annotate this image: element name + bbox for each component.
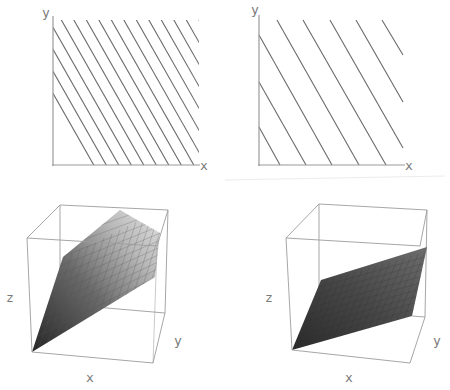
x-axis-label: x bbox=[405, 158, 413, 173]
contour-lines bbox=[259, 20, 403, 165]
surface-mesh bbox=[292, 247, 427, 350]
figure-canvas: y x y x bbox=[0, 0, 450, 390]
z-axis-label: z bbox=[265, 290, 273, 305]
contour-plot-sparse: y x bbox=[251, 2, 413, 173]
surface-plot-shallow: z y x bbox=[265, 204, 441, 385]
x-axis-label: x bbox=[86, 370, 94, 385]
z-axis-label: z bbox=[6, 290, 14, 305]
separator-line bbox=[225, 176, 445, 180]
y-axis-label: y bbox=[42, 5, 50, 20]
y-axis-label: y bbox=[433, 333, 441, 348]
x-axis-label: x bbox=[200, 158, 208, 173]
surface-plot-steep: z y x bbox=[6, 182, 202, 385]
y-axis-label: y bbox=[251, 2, 259, 17]
y-axis-label: y bbox=[174, 333, 182, 348]
x-axis-label: x bbox=[345, 370, 353, 385]
